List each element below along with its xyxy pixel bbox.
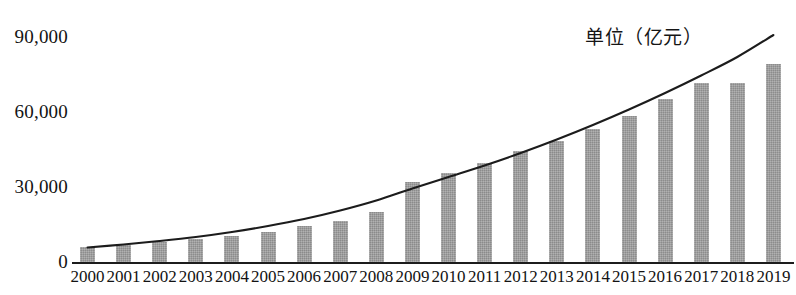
- bar: [261, 232, 276, 262]
- bar: [622, 116, 637, 262]
- bar-chart: 030,00060,00090,000 20002001200220032004…: [0, 0, 796, 295]
- bar: [224, 236, 239, 262]
- bar: [333, 221, 348, 262]
- bar: [549, 141, 564, 262]
- bar: [730, 83, 745, 262]
- y-axis: 030,00060,00090,000: [0, 0, 68, 295]
- bar: [369, 212, 384, 262]
- bar: [441, 173, 456, 262]
- x-axis-line: [72, 262, 794, 264]
- y-axis-tick-label: 30,000: [15, 177, 68, 196]
- bar: [188, 239, 203, 262]
- bar: [80, 247, 95, 262]
- y-axis-tick-label: 60,000: [15, 102, 68, 121]
- bar: [152, 242, 167, 262]
- unit-annotation: 单位（亿元）: [585, 22, 702, 49]
- bar: [513, 151, 528, 262]
- bar: [477, 163, 492, 262]
- bar: [297, 226, 312, 262]
- bar: [116, 245, 131, 262]
- bar: [585, 129, 600, 262]
- bar: [658, 99, 673, 262]
- bar: [766, 64, 781, 262]
- bar: [405, 182, 420, 262]
- bar: [694, 83, 709, 262]
- y-axis-tick-label: 90,000: [15, 27, 68, 46]
- x-axis-tick-label: 2019: [751, 268, 795, 285]
